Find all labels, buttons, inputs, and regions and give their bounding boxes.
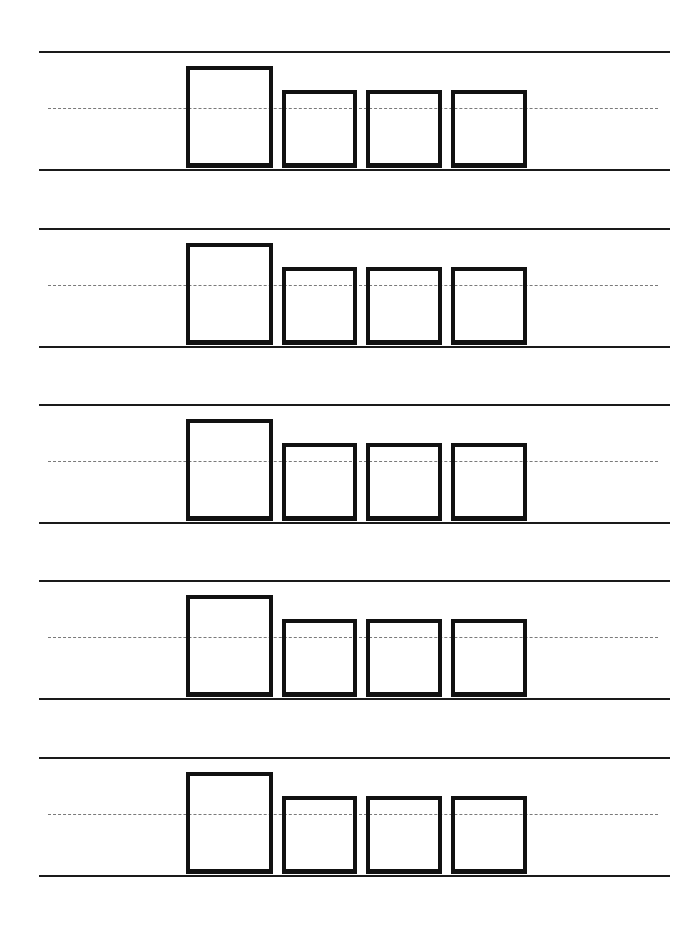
top-line [39, 757, 670, 759]
baseline [39, 522, 670, 524]
writing-row-2 [0, 228, 700, 358]
short-letter-box [451, 443, 527, 521]
baseline [39, 169, 670, 171]
writing-row-3 [0, 404, 700, 534]
baseline [39, 346, 670, 348]
short-letter-box [451, 796, 527, 874]
short-letter-box [366, 443, 442, 521]
tall-letter-box [186, 419, 273, 521]
short-letter-box [282, 90, 357, 168]
tall-letter-box [186, 595, 273, 697]
short-letter-box [366, 90, 442, 168]
top-line [39, 228, 670, 230]
short-letter-box [366, 267, 442, 345]
short-letter-box [451, 90, 527, 168]
short-letter-box [282, 619, 357, 697]
tall-letter-box [186, 772, 273, 874]
tall-letter-box [186, 243, 273, 345]
top-line [39, 580, 670, 582]
baseline [39, 875, 670, 877]
tall-letter-box [186, 66, 273, 168]
short-letter-box [366, 619, 442, 697]
short-letter-box [282, 443, 357, 521]
top-line [39, 51, 670, 53]
writing-row-1 [0, 51, 700, 181]
short-letter-box [282, 796, 357, 874]
short-letter-box [282, 267, 357, 345]
short-letter-box [366, 796, 442, 874]
top-line [39, 404, 670, 406]
short-letter-box [451, 619, 527, 697]
baseline [39, 698, 670, 700]
short-letter-box [451, 267, 527, 345]
writing-row-4 [0, 580, 700, 710]
writing-row-5 [0, 757, 700, 887]
